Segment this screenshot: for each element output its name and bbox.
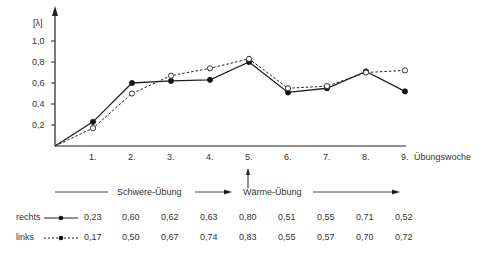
- table-cell-links: 0,57: [317, 232, 335, 242]
- data-point: [207, 77, 212, 82]
- data-point: [129, 91, 134, 96]
- table-cell-links: 0,55: [278, 232, 296, 242]
- table-cell-links: 0,67: [161, 232, 179, 242]
- data-point: [324, 84, 329, 89]
- table-cell-rechts: 0,52: [395, 212, 413, 222]
- table-cell-links: 0,74: [200, 232, 218, 242]
- y-tick-label: 0,2: [32, 120, 45, 130]
- table-cell-links: 0,70: [356, 232, 374, 242]
- x-tick-label: 1.: [89, 152, 97, 162]
- data-point: [168, 73, 173, 78]
- arrow-right-icon: [392, 190, 400, 195]
- data-point: [207, 66, 212, 71]
- data-point: [129, 80, 134, 85]
- y-tick-label: 0,4: [32, 99, 45, 109]
- data-point: [363, 70, 368, 75]
- y-tick-label: 0,8: [32, 57, 45, 67]
- x-tick-label: 4.: [206, 152, 214, 162]
- series-line-rechts: [55, 62, 405, 146]
- arrow-up-icon: [246, 168, 250, 175]
- data-point: [90, 119, 95, 124]
- table-cell-rechts: 0,23: [84, 212, 102, 222]
- x-tick-label: 7.: [323, 152, 331, 162]
- table-cell-rechts: 0,55: [317, 212, 335, 222]
- x-axis-label: Übungswoche: [414, 152, 471, 162]
- legend-rechts-label: rechts: [16, 212, 41, 222]
- y-axis-arrow-icon: [52, 6, 58, 16]
- table-cell-links: 0,17: [84, 232, 102, 242]
- table-cell-rechts: 0,60: [122, 212, 140, 222]
- series-line-links: [55, 59, 405, 146]
- y-axis-label: [λ]: [33, 18, 43, 28]
- x-tick-label: 5.: [245, 152, 253, 162]
- table-cell-rechts: 0,80: [239, 212, 257, 222]
- table-cell-rechts: 0,51: [278, 212, 296, 222]
- x-tick-label: 8.: [362, 152, 370, 162]
- table-cell-rechts: 0,62: [161, 212, 179, 222]
- x-tick-label: 6.: [284, 152, 292, 162]
- data-point: [402, 89, 407, 94]
- data-point: [168, 78, 173, 83]
- phase-schwere-label: Schwere-Übung: [117, 187, 182, 197]
- x-tick-label: 9.: [401, 152, 409, 162]
- data-point: [285, 86, 290, 91]
- y-tick-label: 0,6: [32, 78, 45, 88]
- table-cell-links: 0,72: [395, 232, 413, 242]
- data-point: [90, 126, 95, 131]
- data-point: [402, 68, 407, 73]
- data-point: [246, 56, 251, 61]
- x-tick-label: 2.: [128, 152, 136, 162]
- arrow-right-icon: [224, 190, 232, 195]
- table-cell-links: 0,83: [239, 232, 257, 242]
- x-tick-label: 3.: [167, 152, 175, 162]
- legend-links-label: links: [16, 232, 34, 242]
- table-cell-links: 0,50: [122, 232, 140, 242]
- table-cell-rechts: 0,63: [200, 212, 218, 222]
- table-cell-rechts: 0,71: [356, 212, 374, 222]
- phase-waerme-label: Wärme-Übung: [243, 187, 302, 197]
- y-tick-label: 1,0: [32, 36, 45, 46]
